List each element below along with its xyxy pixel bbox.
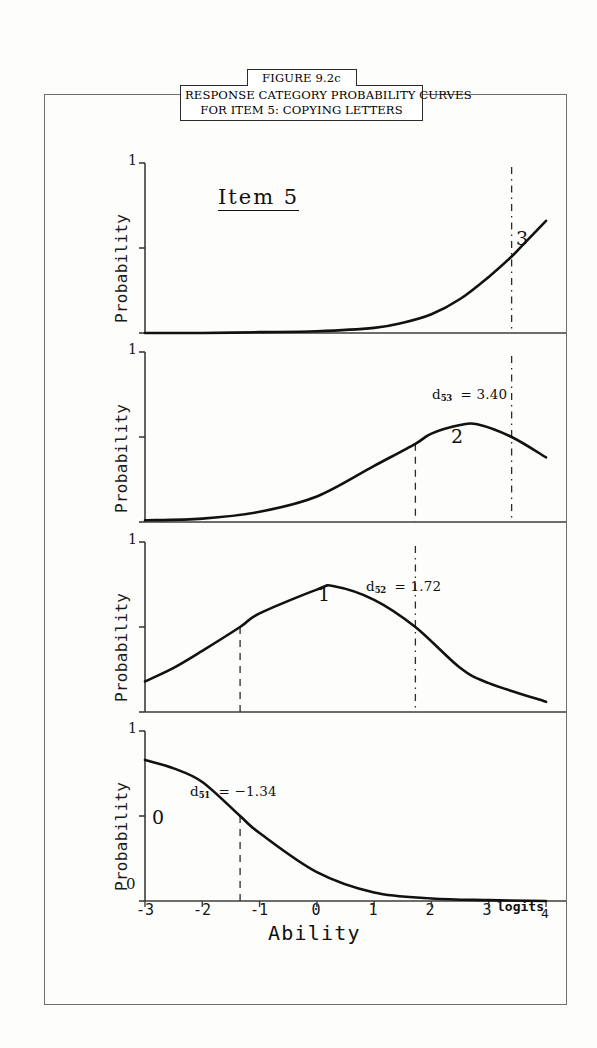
y-axis-label-panel-3: Probability <box>112 593 131 702</box>
x-tick-label-4: 1 <box>361 901 385 919</box>
x-axis-units: logits <box>497 899 544 914</box>
y-tick-top-panel-4: 1 <box>128 720 137 736</box>
threshold-subscript-d52: 52 <box>375 585 386 595</box>
category-label-3: 3 <box>516 227 528 249</box>
x-tick-label-3: 0 <box>304 901 328 919</box>
y-tick-top-panel-1: 1 <box>128 152 137 168</box>
threshold-annotation-d53: d53 = 3.40 <box>432 386 507 403</box>
category-label-1: 1 <box>318 583 330 605</box>
x-tick-label-2: -1 <box>247 901 271 919</box>
figure-caption-line-2: FOR ITEM 5: COPYING LETTERS <box>185 103 418 118</box>
category-label-2: 2 <box>451 425 463 447</box>
x-tick-label-6: 3 <box>475 901 499 919</box>
y-axis-label-panel-2: Probability <box>112 404 131 513</box>
threshold-annotation-d51: d51 = −1.34 <box>190 783 277 800</box>
y-axis-label-panel-1: Probability <box>112 214 131 323</box>
threshold-value-d51: = −1.34 <box>218 783 276 799</box>
x-axis-title: Ability <box>268 921 361 945</box>
threshold-subscript-d51: 51 <box>199 790 210 800</box>
threshold-symbol-d53: d <box>432 386 441 402</box>
threshold-annotation-d52: d52 = 1.72 <box>366 578 441 595</box>
figure-caption-line-1: RESPONSE CATEGORY PROBABILITY CURVES <box>185 88 418 103</box>
x-tick-label-5: 2 <box>418 901 442 919</box>
figure-number: FIGURE 9.2c <box>247 69 357 86</box>
figure-title-block: FIGURE 9.2c RESPONSE CATEGORY PROBABILIT… <box>180 69 423 121</box>
threshold-value-d52: = 1.72 <box>394 578 441 594</box>
threshold-value-d53: = 3.40 <box>460 386 507 402</box>
threshold-symbol-d52: d <box>366 578 375 594</box>
x-tick-label-1: -2 <box>190 901 214 919</box>
threshold-symbol-d51: d <box>190 783 199 799</box>
x-tick-label-0: -3 <box>133 901 157 919</box>
threshold-subscript-d53: 53 <box>441 393 452 403</box>
y-tick-top-panel-3: 1 <box>128 531 137 547</box>
category-label-0: 0 <box>152 806 164 828</box>
figure-caption: RESPONSE CATEGORY PROBABILITY CURVES FOR… <box>180 85 423 121</box>
y-tick-top-panel-2: 1 <box>128 341 137 357</box>
y-tick-bottom-panel-4: 0 <box>126 875 136 893</box>
item-title: Item 5 <box>218 185 299 211</box>
